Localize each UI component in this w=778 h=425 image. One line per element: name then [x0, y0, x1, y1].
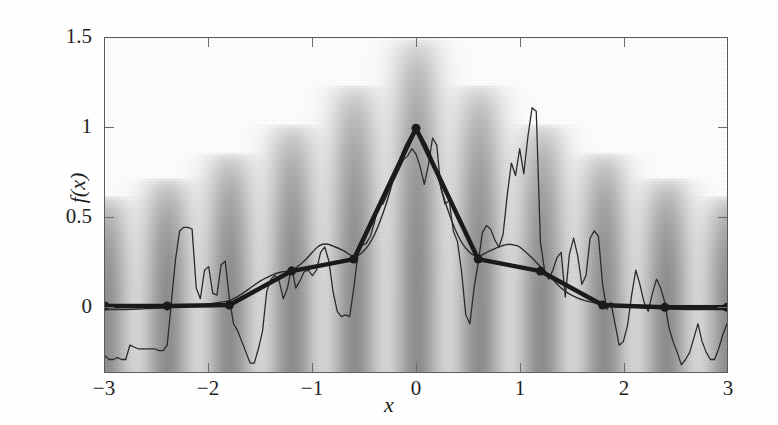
data-point-marker: [598, 301, 607, 310]
noisy-series: [105, 108, 727, 365]
plot-area: [104, 37, 728, 373]
y-tick-right-0: [718, 307, 727, 308]
data-point-marker: [660, 303, 669, 312]
y-tick-left-2: [105, 127, 114, 128]
y-tick-label-1: 1: [34, 116, 92, 137]
x-tick-bottom-5: [624, 363, 625, 372]
data-point-marker: [412, 124, 421, 133]
x-tick-top-3: [416, 38, 417, 47]
data-point-marker: [225, 301, 234, 310]
y-tick-right-2: [718, 127, 727, 128]
x-tick-bottom-3: [416, 363, 417, 372]
data-point-marker: [287, 267, 296, 276]
x-tick-top-5: [624, 38, 625, 47]
x-tick-top-1: [208, 38, 209, 47]
y-axis-label: f(x): [65, 128, 91, 248]
data-point-marker: [536, 267, 545, 276]
x-axis-label: x: [0, 392, 778, 418]
y-tick-left-1: [105, 217, 114, 218]
x-tick-top-4: [520, 38, 521, 47]
data-point-marker: [474, 255, 483, 264]
data-point-marker: [163, 301, 172, 310]
y-tick-right-1: [718, 217, 727, 218]
x-tick-bottom-2: [312, 363, 313, 372]
y-tick-label-1_5: 1.5: [34, 26, 92, 47]
noisy-curve-path: [105, 108, 727, 365]
x-tick-bottom-4: [520, 363, 521, 372]
y-tick-left-0: [105, 307, 114, 308]
x-tick-top-2: [312, 38, 313, 47]
series-layer: [105, 38, 727, 372]
data-point-marker: [349, 255, 358, 264]
figure-canvas: f(x) 1.5 1 0.5 0 −3 −2 −1 0 1 2 3 x: [0, 0, 778, 425]
y-tick-label-0: 0: [34, 296, 92, 317]
x-tick-bottom-1: [208, 363, 209, 372]
y-tick-label-0_5: 0.5: [34, 206, 92, 227]
